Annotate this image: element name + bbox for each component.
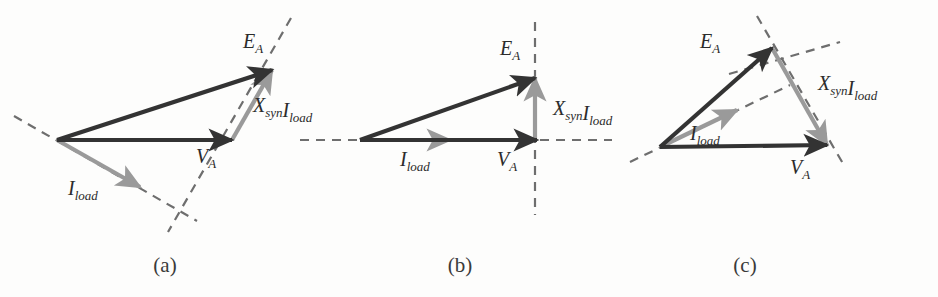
label-iload: Iload [67, 177, 98, 203]
label-ea: EA [699, 30, 720, 56]
label-ea: EA [499, 37, 520, 63]
panel-caption-c: (c) [733, 253, 756, 277]
phasor-panel-b: EAVAXsynIloadIload(b) [300, 22, 613, 277]
figure-container: EAVAXsynIloadIload(a)EAVAXsynIloadIload(… [0, 0, 938, 297]
label-iload: Iload [399, 148, 430, 174]
dashed-reference-line [168, 18, 291, 232]
label-xsyniload: XsynIload [817, 72, 878, 103]
label-ea: EA [242, 30, 263, 56]
vector-va [660, 145, 827, 147]
phasor-panel-a: EAVAXsynIloadIload(a) [14, 18, 313, 277]
label-va: VA [790, 156, 810, 182]
label-va: VA [196, 145, 216, 171]
label-xsyniload: XsynIload [252, 94, 313, 125]
label-va: VA [497, 148, 517, 174]
vector-ea [360, 78, 535, 140]
panel-caption-a: (a) [153, 253, 176, 277]
phasor-diagram-figure: EAVAXsynIloadIload(a)EAVAXsynIloadIload(… [0, 0, 938, 297]
vector-xsyniload [772, 48, 827, 145]
panels-root: EAVAXsynIloadIload(a)EAVAXsynIloadIload(… [14, 16, 878, 277]
phasor-panel-c: EAVAXsynIloadIload(c) [630, 16, 878, 277]
panel-caption-b: (b) [448, 253, 473, 277]
label-xsyniload: XsynIload [552, 97, 613, 128]
